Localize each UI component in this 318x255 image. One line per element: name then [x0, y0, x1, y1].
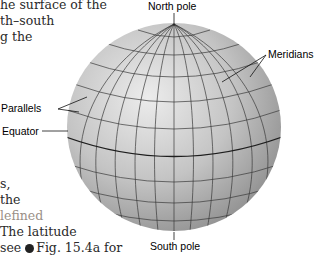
parallels-label: Parallels	[1, 102, 41, 114]
south-pole-label: South pole	[150, 240, 200, 252]
north-pole-label: North pole	[148, 0, 196, 12]
equator-label: Equator	[2, 125, 39, 137]
meridians-label: Meridians	[268, 48, 314, 60]
